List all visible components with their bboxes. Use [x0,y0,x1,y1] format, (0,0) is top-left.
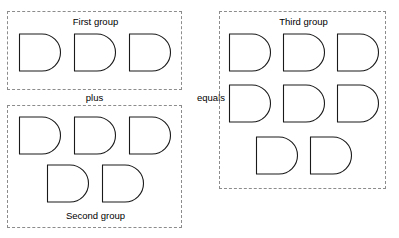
d-shape [46,164,91,203]
d-shape [336,33,381,72]
group-first: First group [7,11,182,90]
d-shape [18,33,63,72]
d-shape [228,84,273,123]
d-shape [282,84,327,123]
d-shape [128,33,173,72]
group-second-caption: Second group [8,210,183,222]
d-shape [336,84,381,123]
diagram-canvas: First group plus [0,0,399,238]
d-shape [101,164,146,203]
d-shape [128,116,173,155]
d-shape [73,116,118,155]
d-shape [282,33,327,72]
group-third-caption: Third group [220,16,387,28]
d-shape [309,136,354,175]
group-third: Third group [219,11,386,189]
d-shape [18,116,63,155]
d-shape [228,33,273,72]
operator-plus-label: plus [7,92,182,104]
d-shape [73,33,118,72]
group-second: Second group [7,105,182,228]
group-first-caption: First group [8,16,183,28]
d-shape [255,136,300,175]
